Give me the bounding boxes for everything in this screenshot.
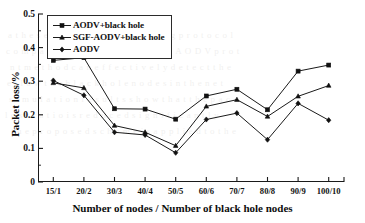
x-tick-label: 20/2 <box>76 186 91 196</box>
data-point <box>327 118 331 123</box>
x-tick-label: 30/3 <box>107 186 122 196</box>
data-point <box>266 108 270 112</box>
x-axis-ticks <box>53 177 344 182</box>
legend-label: AODV <box>72 44 100 54</box>
data-point <box>296 69 300 73</box>
y-axis-ticks <box>38 14 43 182</box>
legend-item: AODV+black hole <box>52 19 164 31</box>
y-tick-label: 0 <box>3 177 35 187</box>
data-point <box>327 63 331 67</box>
data-point <box>235 97 240 101</box>
legend-marker-square-icon <box>52 20 72 31</box>
x-tick-label: 90/9 <box>290 186 305 196</box>
data-point <box>174 117 178 121</box>
y-tick-label: 0.5 <box>3 9 35 19</box>
y-axis-title: Packet loss/% <box>9 44 21 164</box>
data-series <box>51 56 330 121</box>
x-axis-title: Number of nodes / Number of black hole n… <box>0 202 365 214</box>
line-chart: 00.10.20.30.40.5 15/120/230/340/450/560/… <box>0 0 365 223</box>
x-tick-label: 15/1 <box>46 186 61 196</box>
data-series <box>51 78 331 155</box>
data-point <box>326 83 331 87</box>
legend-item: SGF-AODV+black hole <box>52 31 164 43</box>
legend-label: AODV+black hole <box>72 20 144 30</box>
x-tick-label: 100/10 <box>317 186 341 196</box>
data-point <box>143 107 147 111</box>
data-series-layer <box>51 56 331 156</box>
data-point <box>113 107 117 111</box>
legend-marker-diamond-icon <box>52 44 72 55</box>
x-tick-label: 50/5 <box>168 186 183 196</box>
data-point <box>204 94 208 98</box>
x-tick-label: 70/7 <box>229 186 244 196</box>
legend-marker-triangle-icon <box>52 32 72 43</box>
chart-legend: AODV+black holeSGF-AODV+black holeAODV <box>47 15 172 59</box>
x-tick-label: 40/4 <box>137 186 152 196</box>
x-tick-label: 80/8 <box>260 186 275 196</box>
data-point <box>235 87 239 91</box>
x-tick-label: 60/6 <box>199 186 214 196</box>
data-point <box>51 78 55 83</box>
legend-item: AODV <box>52 43 164 55</box>
legend-label: SGF-AODV+black hole <box>72 32 164 42</box>
